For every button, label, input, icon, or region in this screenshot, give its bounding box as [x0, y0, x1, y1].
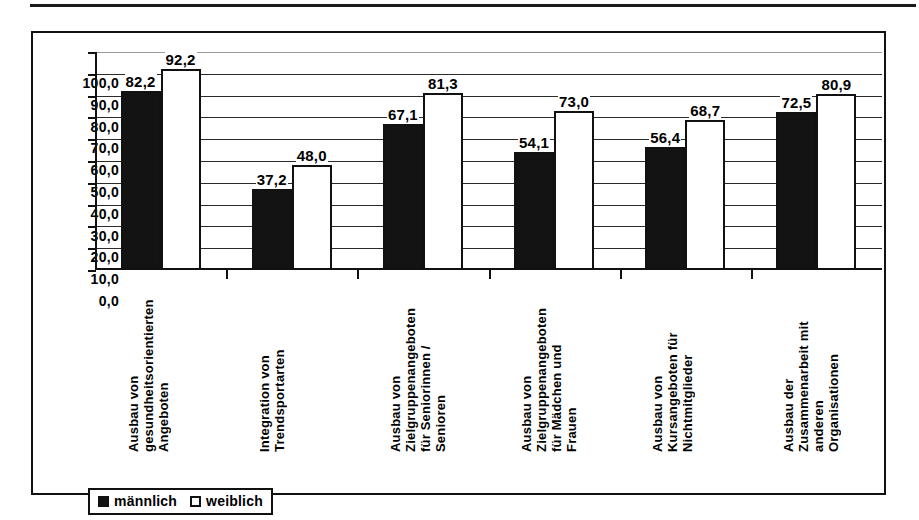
bar-maennlich: [514, 152, 554, 270]
y-axis-tick-mark: [88, 96, 96, 98]
x-axis-category-labels: Ausbau von gesundheitsorientierten Angeb…: [95, 270, 882, 455]
bar-weiblich: [161, 69, 201, 270]
bar-value-label: 68,7: [689, 103, 721, 118]
y-axis-tick-mark: [88, 117, 96, 119]
bar-value-label: 67,1: [387, 107, 419, 122]
x-axis-category-label: Ausbau von Zielgruppenangeboten für Seni…: [389, 282, 457, 452]
x-axis-category-label: Ausbau von Kursangeboten für Nichtmitgli…: [651, 282, 719, 452]
y-axis-tick-mark: [88, 248, 96, 250]
chart-legend: männlich weiblich: [88, 488, 273, 515]
chart-frame: 0,010,020,030,040,050,060,070,080,090,01…: [31, 31, 886, 495]
x-axis-category-label: Ausbau von gesundheitsorientierten Angeb…: [127, 282, 195, 452]
bar-maennlich: [776, 112, 816, 270]
bar-value-label: 72,5: [780, 95, 812, 110]
legend-swatch-maennlich: [98, 496, 109, 507]
y-axis-tick-mark: [88, 183, 96, 185]
bar-maennlich: [252, 189, 292, 270]
legend-item-maennlich: männlich: [98, 493, 177, 509]
x-axis-category-label: Ausbau der Zusammenarbeit mit anderen Or…: [782, 282, 850, 452]
y-axis-tick-mark: [88, 205, 96, 207]
legend-swatch-weiblich: [190, 496, 201, 507]
x-axis-category-label: Ausbau von Zielgruppenangeboten für Mädc…: [520, 282, 588, 452]
bar-weiblich: [685, 120, 725, 270]
x-axis-category-label: Integration von Trendsportarten: [258, 282, 326, 452]
y-axis-tick-mark: [88, 139, 96, 141]
y-axis-tick-mark: [88, 52, 96, 54]
bar-value-label: 48,0: [296, 148, 328, 163]
bar-value-label: 82,2: [125, 74, 157, 89]
legend-label-weiblich: weiblich: [206, 493, 263, 509]
bar-maennlich: [383, 124, 423, 270]
bar-maennlich: [121, 91, 161, 270]
legend-label-maennlich: männlich: [114, 493, 177, 509]
bar-value-label: 56,4: [649, 130, 681, 145]
bar-weiblich: [816, 94, 856, 270]
y-axis-tick-mark: [88, 226, 96, 228]
bar-value-label: 73,0: [558, 94, 590, 109]
bar-value-label: 80,9: [820, 77, 852, 92]
bar-value-label: 37,2: [256, 172, 288, 187]
y-axis-tick-mark: [88, 161, 96, 163]
bar-maennlich: [645, 147, 685, 270]
bar-value-label: 92,2: [165, 52, 197, 67]
bar-weiblich: [423, 93, 463, 270]
y-axis-tick-mark: [88, 74, 96, 76]
bar-value-label: 54,1: [518, 135, 550, 150]
legend-item-weiblich: weiblich: [190, 493, 263, 509]
bar-weiblich: [292, 165, 332, 270]
page-top-rule: [30, 4, 916, 7]
plot-axes: [95, 52, 882, 270]
bar-weiblich: [554, 111, 594, 270]
plot-area: 82,292,237,248,067,181,354,173,056,468,7…: [95, 52, 882, 270]
bar-value-label: 81,3: [427, 76, 459, 91]
